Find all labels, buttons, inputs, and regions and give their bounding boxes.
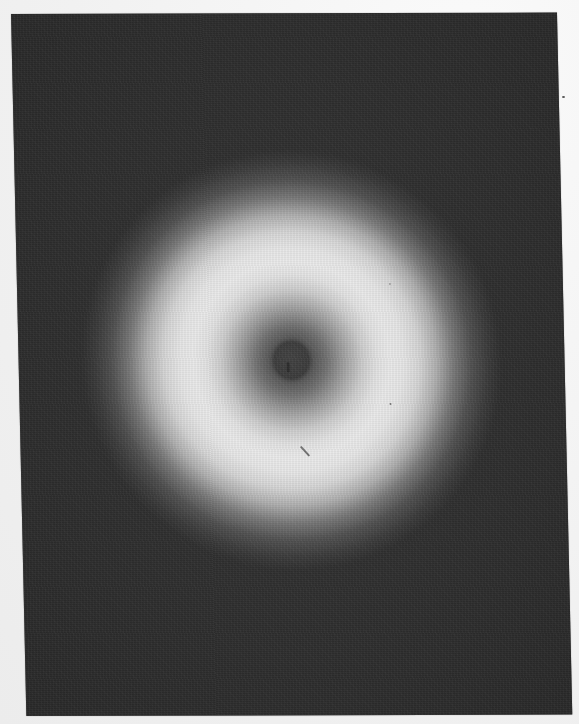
- dust-speck: [389, 283, 391, 285]
- photograph-panel: [11, 13, 572, 716]
- center-spot-mark: [287, 362, 290, 372]
- dust-speck: [389, 403, 391, 405]
- center-dark-spot: [273, 341, 310, 379]
- margin-speck: [562, 96, 565, 98]
